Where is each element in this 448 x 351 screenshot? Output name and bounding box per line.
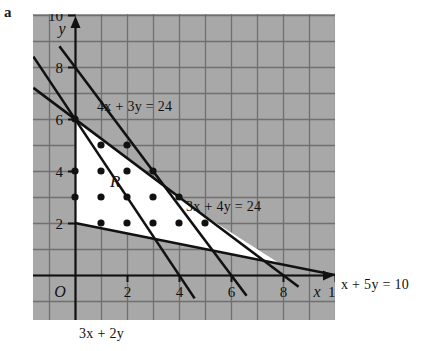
lattice-point [123, 141, 130, 148]
lattice-point [97, 219, 104, 226]
lattice-point [149, 193, 156, 200]
label-line-3x-4y: 3x + 4y = 24 [186, 199, 261, 215]
origin-label: O [54, 283, 66, 300]
x-tick-label-4: 4 [176, 284, 184, 300]
x-tick-label-8: 8 [280, 284, 288, 300]
figure-root: a 246810246810OxyR 4x + 3y = 24 3x + 4y … [0, 0, 448, 351]
lattice-point [97, 193, 104, 200]
x-tick-label-2: 2 [124, 284, 132, 300]
y-tick-label-8: 8 [56, 60, 64, 76]
y-axis-label: y [56, 20, 66, 38]
panel-label: a [4, 4, 12, 21]
lattice-point [71, 115, 78, 122]
plot-svg: 246810246810OxyR [33, 14, 335, 320]
x-tick-label-6: 6 [228, 284, 236, 300]
lattice-point [123, 193, 130, 200]
x-tick-label-10: 10 [328, 284, 335, 300]
y-tick-label-4: 4 [56, 164, 64, 180]
label-line-4x-3y: 4x + 3y = 24 [97, 99, 172, 115]
x-axis-label: x [312, 283, 320, 300]
lattice-point [175, 193, 182, 200]
lattice-point [201, 219, 208, 226]
lattice-point [149, 167, 156, 174]
lattice-point [175, 219, 182, 226]
y-tick-label-6: 6 [56, 112, 64, 128]
lattice-point [149, 219, 156, 226]
lattice-point [123, 167, 130, 174]
lattice-point [97, 141, 104, 148]
lattice-point [123, 219, 130, 226]
lattice-point [97, 167, 104, 174]
label-line-x-5y: x + 5y = 10 [341, 277, 409, 293]
region-label: R [109, 172, 121, 191]
y-tick-label-2: 2 [56, 216, 64, 232]
label-objective: 3x + 2y [79, 326, 124, 342]
plot-area: 246810246810OxyR [33, 14, 335, 320]
lattice-point [71, 167, 78, 174]
lattice-point [71, 193, 78, 200]
